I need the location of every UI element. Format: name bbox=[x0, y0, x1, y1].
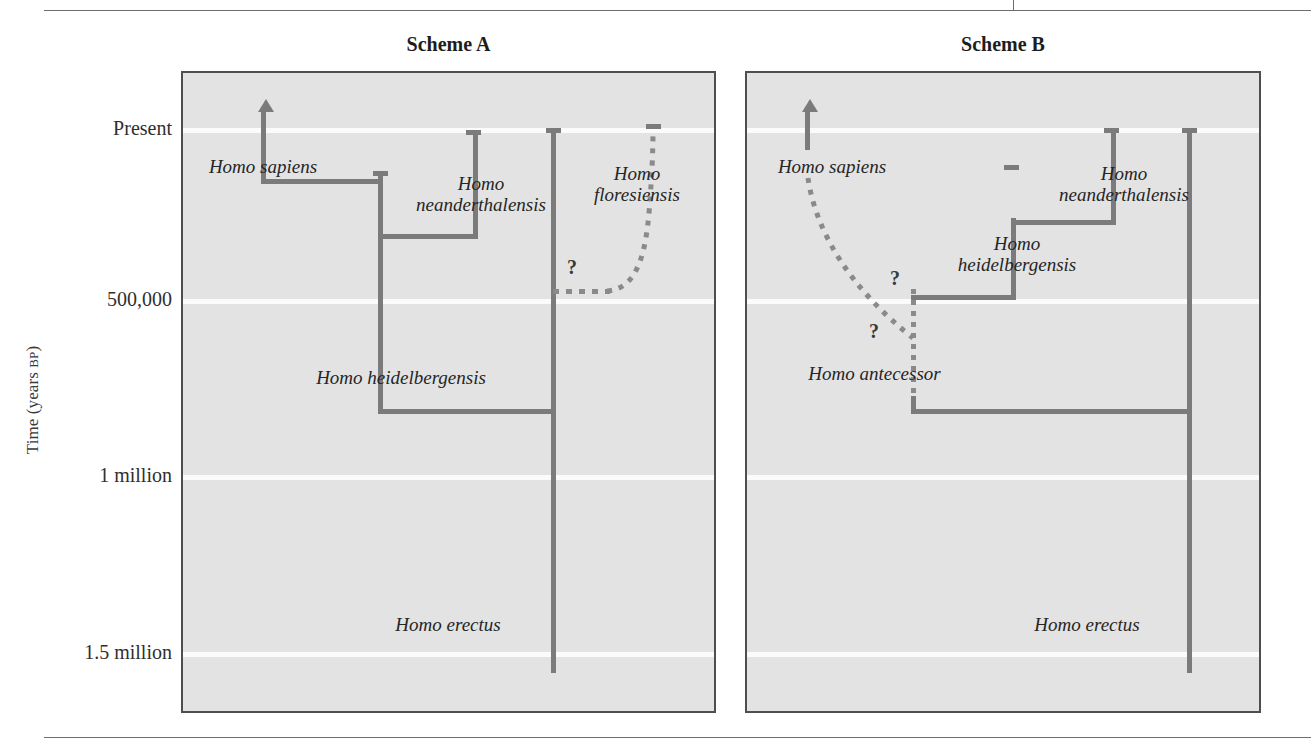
y-axis-title-end: ) bbox=[23, 346, 42, 352]
question-mark-upper-b: ? bbox=[890, 267, 900, 290]
label-homo-antecessor-b: Homo antecessor bbox=[767, 363, 982, 384]
panel-title-scheme-b: Scheme B bbox=[745, 33, 1261, 56]
y-axis-tick-1-5-million: 1.5 million bbox=[0, 641, 172, 664]
label-homo-heidelbergensis-a: Homo heidelbergensis bbox=[286, 367, 516, 388]
label-homo-heidelbergensis-b-line1: Homo bbox=[927, 233, 1107, 254]
y-axis-title-bp: BP bbox=[26, 352, 41, 368]
page-rule-top-tick bbox=[1013, 0, 1014, 11]
question-mark-lower-b: ? bbox=[869, 320, 879, 343]
label-homo-neanderthalensis-a-line1: Homo bbox=[396, 173, 566, 194]
label-homo-floresiensis-a-line2: floresiensis bbox=[567, 184, 707, 205]
y-axis-tick-500000: 500,000 bbox=[0, 288, 172, 311]
label-homo-floresiensis-a-line1: Homo bbox=[567, 163, 707, 184]
label-homo-heidelbergensis-b-line2: heidelbergensis bbox=[927, 254, 1107, 275]
label-homo-neanderthalensis-a-line2: neanderthalensis bbox=[396, 194, 566, 215]
label-homo-neanderthalensis-b-line2: neanderthalensis bbox=[1024, 184, 1224, 205]
label-homo-erectus-a: Homo erectus bbox=[358, 614, 538, 635]
y-axis-title-main: Time (years bbox=[23, 368, 42, 455]
label-homo-erectus-b: Homo erectus bbox=[997, 614, 1177, 635]
panel-title-scheme-a: Scheme A bbox=[181, 33, 716, 56]
question-mark-floresiensis-a: ? bbox=[567, 256, 577, 279]
panel-scheme-a: Homo sapiens Homo neanderthalensis Homo … bbox=[181, 71, 716, 713]
label-homo-neanderthalensis-b-line1: Homo bbox=[1024, 163, 1224, 184]
page-rule-bottom bbox=[44, 737, 1311, 738]
label-homo-sapiens-b: Homo sapiens bbox=[747, 156, 917, 177]
page-rule-top bbox=[44, 10, 1311, 11]
cap-floresiensis-a bbox=[646, 124, 661, 129]
label-homo-sapiens-a: Homo sapiens bbox=[188, 156, 338, 177]
y-axis-tick-present: Present bbox=[0, 117, 172, 140]
panel-scheme-b: Homo sapiens Homo neanderthalensis Homo … bbox=[745, 71, 1261, 713]
y-axis-tick-1-million: 1 million bbox=[0, 464, 172, 487]
